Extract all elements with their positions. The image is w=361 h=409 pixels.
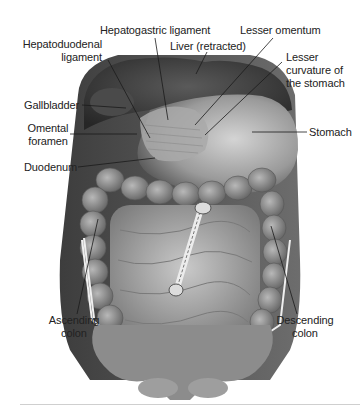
label-hepatogastric-ligament: Hepatogastric ligament: [100, 24, 210, 37]
anatomy-figure: Hepatogastric ligament Lesser omentum He…: [0, 0, 361, 409]
label-stomach: Stomach: [309, 126, 352, 139]
gallbladder: [90, 88, 134, 116]
label-lesser-curvature-line1: Lesser: [286, 51, 345, 64]
label-lesser-curvature: Lesser curvature of the stomach: [286, 51, 345, 90]
label-descending-colon-line1: Descending: [272, 314, 338, 327]
label-ascending-colon-line2: colon: [42, 327, 106, 340]
label-lesser-omentum: Lesser omentum: [240, 24, 321, 37]
label-hepatoduodenal-line2: ligament: [22, 51, 102, 64]
small-intestine-mesentery: [110, 205, 260, 345]
label-liver: Liver (retracted): [170, 40, 246, 53]
label-ascending-colon-line1: Ascending: [42, 314, 106, 327]
label-omental-foramen-line2: foramen: [26, 135, 70, 148]
label-lesser-curvature-line3: the stomach: [286, 77, 345, 90]
label-gallbladder: Gallbladder: [24, 99, 79, 112]
pelvis: [92, 325, 273, 400]
label-omental-foramen-line1: Omental: [26, 122, 70, 135]
label-lesser-curvature-line2: curvature of: [286, 64, 345, 77]
label-hepatoduodenal-ligament: Hepatoduodenal ligament: [22, 38, 102, 64]
label-descending-colon: Descending colon: [272, 314, 338, 340]
label-ascending-colon: Ascending colon: [42, 314, 106, 340]
label-hepatoduodenal-line1: Hepatoduodenal: [22, 38, 102, 51]
label-descending-colon-line2: colon: [272, 327, 338, 340]
label-omental-foramen: Omental foramen: [26, 122, 70, 148]
label-duodenum: Duodenum: [24, 161, 77, 174]
bottom-divider: [20, 404, 360, 405]
lesser-omentum: [140, 106, 208, 161]
